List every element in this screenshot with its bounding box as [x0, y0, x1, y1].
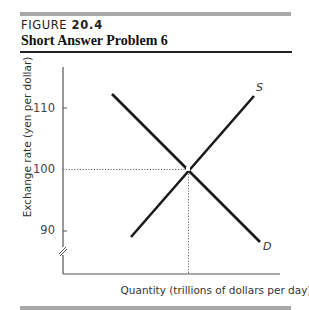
y-axis-title: Exchange rate (yen per dollar): [21, 57, 33, 218]
demand-label: D: [263, 240, 271, 253]
y-tick-label-110: 110: [33, 101, 55, 115]
y-tick-label-100: 100: [33, 162, 55, 176]
chart-plot: [0, 0, 309, 310]
y-tick-label-90: 90: [40, 223, 55, 237]
equilibrium-point: [186, 167, 190, 171]
supply-label: S: [256, 81, 263, 94]
bottom-rule: [20, 306, 291, 310]
x-axis-title: Quantity (trillions of dollars per day): [121, 284, 309, 296]
